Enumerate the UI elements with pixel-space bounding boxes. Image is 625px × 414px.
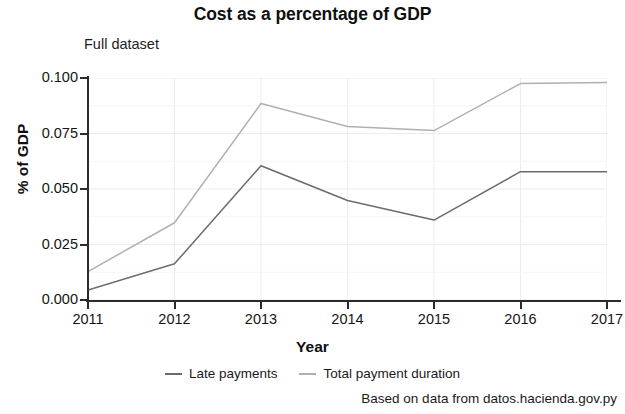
y-tick-label: 0.100 bbox=[20, 69, 78, 85]
y-tick-label: 0.050 bbox=[20, 180, 78, 196]
chart-subtitle: Full dataset bbox=[84, 36, 159, 52]
x-tick-label: 2014 bbox=[313, 311, 383, 327]
legend-label: Late payments bbox=[189, 366, 278, 381]
legend-line-icon bbox=[165, 373, 182, 375]
y-tick-label: 0.000 bbox=[20, 291, 78, 307]
legend-line-icon bbox=[299, 373, 316, 375]
plot-area bbox=[88, 78, 607, 300]
x-tick-label: 2011 bbox=[53, 311, 123, 327]
y-tick-label: 0.025 bbox=[20, 236, 78, 252]
x-tick-label: 2016 bbox=[486, 311, 556, 327]
x-tick-label: 2013 bbox=[226, 311, 296, 327]
legend-item: Total payment duration bbox=[299, 366, 460, 381]
x-tick-mark bbox=[260, 302, 262, 309]
x-tick-mark bbox=[174, 302, 176, 309]
y-tick-mark bbox=[80, 188, 88, 190]
chart-title: Cost as a percentage of GDP bbox=[0, 4, 625, 25]
x-axis-title: Year bbox=[0, 338, 625, 356]
legend-label: Total payment duration bbox=[323, 366, 460, 381]
y-axis-title: % of GDP bbox=[14, 94, 32, 224]
chart-caption: Based on data from datos.hacienda.gov.py bbox=[361, 391, 617, 406]
legend-item: Late payments bbox=[165, 366, 278, 381]
x-tick-label: 2015 bbox=[399, 311, 469, 327]
y-tick-label: 0.075 bbox=[20, 125, 78, 141]
chart-figure: Cost as a percentage of GDP Full dataset… bbox=[0, 0, 625, 414]
x-axis-line bbox=[86, 300, 621, 302]
y-tick-mark bbox=[80, 77, 88, 79]
y-tick-mark bbox=[80, 244, 88, 246]
y-tick-mark bbox=[80, 299, 88, 301]
x-tick-mark bbox=[433, 302, 435, 309]
x-tick-mark bbox=[347, 302, 349, 309]
x-tick-mark bbox=[520, 302, 522, 309]
x-tick-mark bbox=[606, 302, 608, 309]
plot-lines bbox=[88, 78, 607, 300]
x-tick-mark bbox=[87, 302, 89, 309]
y-tick-mark bbox=[80, 133, 88, 135]
chart-legend: Late paymentsTotal payment duration bbox=[0, 366, 625, 381]
x-tick-label: 2017 bbox=[572, 311, 625, 327]
x-tick-label: 2012 bbox=[140, 311, 210, 327]
